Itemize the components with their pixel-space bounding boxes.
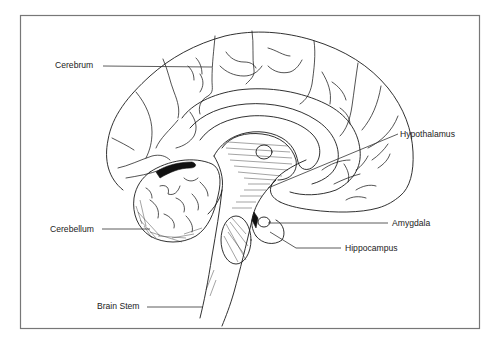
label-hypothalamus: Hypothalamus (268, 129, 455, 188)
label-text-hippocampus: Hippocampus (345, 243, 398, 253)
label-amygdala: Amygdala (268, 218, 430, 228)
label-text-amygdala: Amygdala (392, 218, 430, 228)
amygdala-shape (258, 217, 270, 227)
cerebellum (134, 160, 220, 242)
label-cerebellum: Cerebellum (50, 224, 150, 234)
label-text-brain-stem: Brain Stem (97, 301, 140, 311)
label-text-cerebellum: Cerebellum (50, 224, 94, 234)
brain-diagram: Cerebrum Hypothalamus Cerebellum Amygdal… (0, 0, 499, 344)
label-text-cerebrum: Cerebrum (55, 60, 93, 70)
pons (221, 216, 251, 264)
label-hippocampus: Hippocampus (270, 232, 398, 253)
thalamic-nucleus (256, 145, 272, 159)
limbic-structures (252, 212, 284, 243)
brain-stem (200, 190, 252, 326)
leader-line-cerebrum (103, 66, 212, 67)
label-cerebrum: Cerebrum (55, 60, 212, 70)
leader-line-hippocampus (270, 232, 341, 248)
label-text-hypothalamus: Hypothalamus (400, 129, 455, 139)
cerebrum (107, 31, 414, 212)
label-brain-stem: Brain Stem (97, 301, 203, 311)
